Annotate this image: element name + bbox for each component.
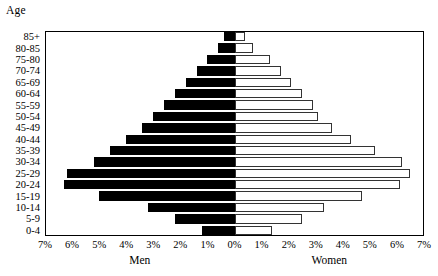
age-axis-labels: 85+80-8575-8070-7465-6960-6455-5950-5445…	[0, 31, 42, 236]
table-row	[45, 65, 424, 76]
bar-men-85+	[224, 32, 235, 41]
y-axis-title: Age	[6, 4, 26, 16]
bar-men-30-34	[94, 157, 235, 166]
age-tick-label: 5-9	[0, 213, 42, 224]
x-tick-label: 7%	[38, 239, 52, 250]
age-tick-label: 20-24	[0, 179, 42, 190]
age-tick-label: 35-39	[0, 145, 42, 156]
women-axis-caption: Women	[312, 254, 347, 266]
bar-women-30-34	[235, 157, 403, 166]
bar-men-15-19	[99, 191, 234, 200]
bar-men-20-24	[64, 180, 235, 189]
table-row	[45, 190, 424, 201]
table-row	[45, 77, 424, 88]
age-tick-label: 45-49	[0, 122, 42, 133]
table-row	[45, 31, 424, 42]
bar-men-60-64	[175, 89, 235, 98]
age-tick-label: 85+	[0, 31, 42, 42]
bar-women-85+	[235, 32, 246, 41]
table-row	[45, 122, 424, 133]
bar-women-55-59	[235, 100, 314, 109]
x-tick-label: 7%	[417, 239, 431, 250]
age-tick-label: 10-14	[0, 202, 42, 213]
bar-women-35-39	[235, 146, 376, 155]
population-pyramid-chart: Age 85+80-8575-8070-7465-6960-6455-5950-…	[0, 0, 438, 276]
x-tick-label: 3%	[146, 239, 160, 250]
bar-men-55-59	[164, 100, 234, 109]
bar-women-70-74	[235, 66, 281, 75]
bar-women-0-4	[235, 226, 273, 235]
age-tick-label: 25-29	[0, 168, 42, 179]
bar-women-45-49	[235, 123, 332, 132]
table-row	[45, 134, 424, 145]
bar-women-75-80	[235, 55, 270, 64]
table-row	[45, 202, 424, 213]
age-tick-label: 30-34	[0, 156, 42, 167]
table-row	[45, 179, 424, 190]
age-tick-label: 55-59	[0, 99, 42, 110]
bar-men-45-49	[142, 123, 234, 132]
bar-women-80-85	[235, 43, 254, 52]
bar-men-40-44	[126, 135, 234, 144]
bar-women-15-19	[235, 191, 362, 200]
table-row	[45, 54, 424, 65]
age-tick-label: 40-44	[0, 134, 42, 145]
bar-women-65-69	[235, 78, 292, 87]
age-tick-label: 50-54	[0, 111, 42, 122]
bar-men-0-4	[202, 226, 234, 235]
age-tick-label: 75-80	[0, 54, 42, 65]
x-tick-label: 2%	[173, 239, 187, 250]
bar-men-35-39	[110, 146, 235, 155]
bar-men-80-85	[218, 43, 234, 52]
table-row	[45, 99, 424, 110]
x-tick-label: 1%	[255, 239, 269, 250]
table-row	[45, 88, 424, 99]
bar-men-50-54	[153, 112, 234, 121]
bar-men-25-29	[67, 169, 235, 178]
men-axis-caption: Men	[129, 254, 150, 266]
x-tick-label: 6%	[65, 239, 79, 250]
x-tick-label: 3%	[309, 239, 323, 250]
table-row	[45, 42, 424, 53]
x-axis-labels: 7%6%5%4%3%2%1%0%1%2%3%4%5%6%7%	[45, 239, 424, 253]
bar-women-25-29	[235, 169, 411, 178]
bar-men-5-9	[175, 214, 235, 223]
age-tick-label: 80-85	[0, 42, 42, 53]
x-tick-label: 4%	[336, 239, 350, 250]
bar-women-50-54	[235, 112, 319, 121]
x-tick-label: 6%	[390, 239, 404, 250]
bar-men-65-69	[186, 78, 235, 87]
x-tick-label: 0%	[228, 239, 242, 250]
table-row	[45, 213, 424, 224]
bar-women-40-44	[235, 135, 351, 144]
table-row	[45, 156, 424, 167]
table-row	[45, 111, 424, 122]
age-tick-label: 70-74	[0, 65, 42, 76]
x-tick-label: 2%	[282, 239, 296, 250]
bar-men-10-14	[148, 203, 235, 212]
bar-men-75-80	[207, 55, 234, 64]
bar-women-20-24	[235, 180, 400, 189]
table-row	[45, 225, 424, 236]
x-tick-label: 4%	[119, 239, 133, 250]
bar-rows	[45, 31, 424, 236]
table-row	[45, 145, 424, 156]
age-tick-label: 0-4	[0, 225, 42, 236]
bar-women-10-14	[235, 203, 324, 212]
age-tick-label: 15-19	[0, 190, 42, 201]
bar-women-60-64	[235, 89, 303, 98]
age-tick-label: 65-69	[0, 77, 42, 88]
age-tick-label: 60-64	[0, 88, 42, 99]
x-tick-label: 5%	[92, 239, 106, 250]
table-row	[45, 168, 424, 179]
bar-men-70-74	[197, 66, 235, 75]
x-tick-label: 1%	[200, 239, 214, 250]
bar-women-5-9	[235, 214, 303, 223]
x-tick-label: 5%	[363, 239, 377, 250]
